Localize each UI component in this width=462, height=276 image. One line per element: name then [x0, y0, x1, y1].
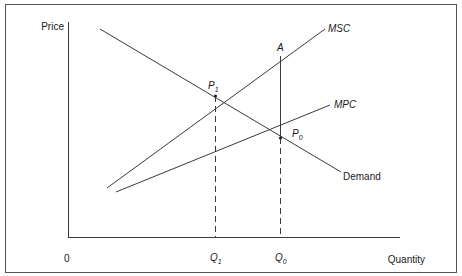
mpc-curve [116, 105, 330, 192]
origin-label: 0 [64, 253, 70, 264]
p0-point [279, 136, 282, 139]
p1-point [214, 94, 217, 97]
demand-curve [100, 29, 341, 172]
p1-label: P1 [208, 80, 219, 93]
q1-label: Q1 [210, 252, 222, 265]
y-axis-label: Price [41, 21, 64, 32]
diagram-canvas: Price Quantity 0 Demand MSC MPC P1 P0 A … [0, 0, 462, 276]
x-axis-label: Quantity [388, 254, 425, 265]
a-label: A [276, 42, 284, 53]
msc-label: MSC [328, 23, 351, 34]
demand-label: Demand [343, 171, 381, 182]
mpc-label: MPC [334, 99, 357, 110]
figure-frame [6, 5, 457, 273]
p0-label: P0 [292, 128, 303, 141]
q0-label: Q0 [275, 252, 287, 265]
